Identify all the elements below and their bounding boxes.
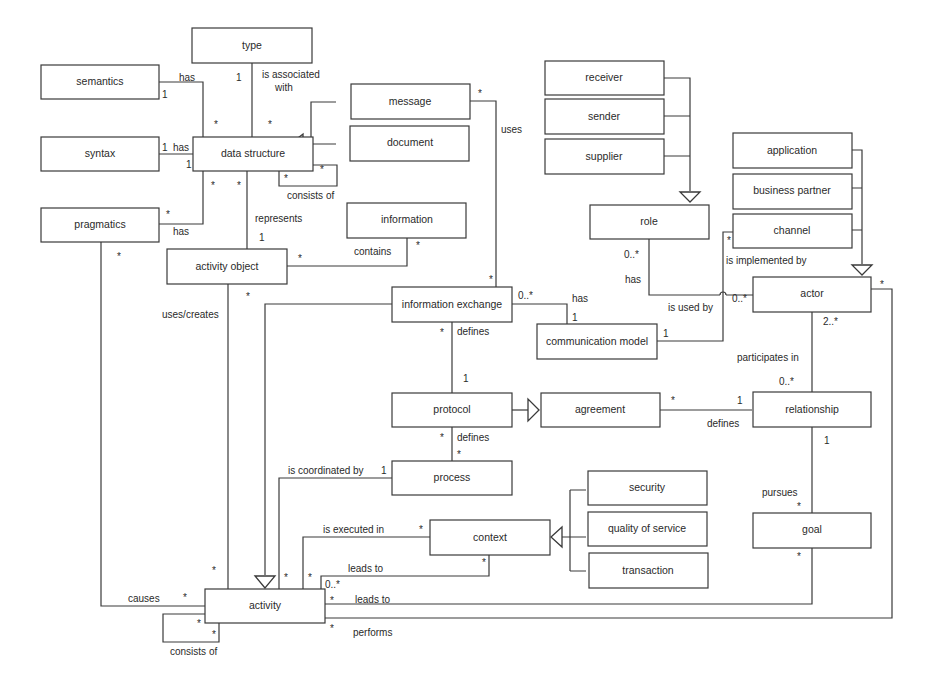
mult-pragmatics-causes: * (117, 251, 121, 262)
class-document[interactable]: document (350, 126, 469, 161)
label-pursues: pursues (762, 487, 798, 498)
class-process[interactable]: process (392, 461, 512, 495)
uml-class-diagram: type semantics syntax pragmatics data st… (0, 0, 925, 677)
class-type[interactable]: type (192, 28, 312, 63)
class-agreement[interactable]: agreement (541, 393, 660, 427)
class-protocol[interactable]: protocol (392, 393, 512, 427)
class-semantics[interactable]: semantics (41, 65, 159, 99)
edge-commmodel-channel (657, 232, 733, 341)
mult-infoexchange-defines: * (440, 327, 444, 338)
class-label: context (473, 531, 507, 543)
label-context-leads-to: leads to (348, 563, 383, 574)
mult-commmodel-used-by: 1 (663, 328, 669, 339)
class-label: type (242, 39, 262, 51)
mult-goal-pursues: * (797, 501, 801, 512)
label-protocol-defines: defines (457, 432, 489, 443)
class-label: pragmatics (74, 218, 125, 230)
class-label: document (387, 136, 433, 148)
class-label: role (640, 215, 658, 227)
class-label: application (767, 144, 817, 156)
label-performs: performs (353, 627, 392, 638)
class-message[interactable]: message (351, 84, 470, 119)
mult-actor-participates: 2..* (823, 316, 838, 327)
class-label: receiver (585, 71, 623, 83)
class-label: transaction (622, 564, 674, 576)
label-is-coordinated-by: is coordinated by (288, 465, 364, 476)
mult-infoexchange-uses: * (489, 274, 493, 285)
class-pragmatics[interactable]: pragmatics (41, 208, 159, 242)
mult-ds-represents: * (237, 180, 241, 191)
class-syntax[interactable]: syntax (41, 137, 159, 171)
edge-generalization-datastructure (311, 102, 336, 144)
class-application[interactable]: application (733, 133, 852, 168)
class-channel[interactable]: channel (733, 214, 852, 248)
mult-semantics: 1 (162, 89, 168, 100)
class-transaction[interactable]: transaction (589, 553, 708, 588)
class-relationship[interactable]: relationship (753, 392, 871, 427)
mult-process-protocol: * (457, 449, 461, 460)
label-participates-in: participates in (737, 352, 799, 363)
label-activity-consists-of: consists of (170, 646, 217, 657)
mult-relationship-defines: 1 (737, 395, 743, 406)
class-data-structure[interactable]: data structure (193, 137, 313, 171)
class-label: data structure (221, 147, 285, 159)
edge-generalization-actor (851, 150, 862, 264)
mult-channel-implemented: * (727, 235, 731, 246)
triangle-actor-icon (852, 265, 872, 275)
class-goal[interactable]: goal (753, 513, 871, 548)
class-information[interactable]: information (347, 203, 466, 238)
edge-generalization-context (551, 490, 586, 571)
label-is-associated-with: is associated (262, 69, 320, 80)
label-infoexchange-defines: defines (457, 326, 489, 337)
edge-message-informationexchange (470, 101, 496, 287)
triangle-agreement-icon (528, 399, 539, 421)
class-information-exchange[interactable]: information exchange (392, 287, 512, 322)
mult-type: 1 (236, 72, 242, 83)
mult-ds-consists-2: * (320, 164, 324, 175)
edge-informationexchange-commmodel (512, 304, 567, 324)
mult-activity-usescreates: * (212, 565, 216, 576)
mult-context-executed: * (419, 524, 423, 535)
mult-information-contains: * (416, 240, 420, 251)
label-is-used-by: is used by (668, 302, 713, 313)
mult-context-leadsto: * (482, 557, 486, 568)
class-supplier[interactable]: supplier (545, 139, 664, 174)
label-is-executed-in: is executed in (323, 524, 384, 535)
mult-ds-pragmatics: * (211, 180, 215, 191)
mult-activityobject-represents: 1 (259, 232, 265, 243)
label-semantics-has: has (179, 72, 195, 83)
mult-ds-type: * (268, 119, 272, 130)
label-is-associated-with-2: with (274, 82, 293, 93)
mult-protocol-process: * (440, 432, 444, 443)
mult-activityobject-usescreates: * (246, 291, 250, 302)
class-communication-model[interactable]: communication model (537, 324, 657, 359)
class-sender[interactable]: sender (545, 99, 664, 134)
mult-commmodel-has: 1 (572, 312, 578, 323)
mult-message-uses: * (478, 88, 482, 99)
triangle-role-icon (680, 192, 700, 202)
label-infoexchange-has: has (572, 293, 588, 304)
mult-actor-performs: * (880, 279, 884, 290)
label-uses: uses (501, 124, 522, 135)
label-is-implemented-by: is implemented by (726, 255, 807, 266)
class-label: relationship (785, 403, 839, 415)
label-pragmatics-has: has (173, 226, 189, 237)
class-label: sender (588, 110, 621, 122)
class-role[interactable]: role (590, 205, 709, 239)
mult-activity-leadsto-context: 0..* (325, 579, 340, 590)
mult-ds-semantics: * (214, 119, 218, 130)
class-activity-object[interactable]: activity object (167, 249, 287, 284)
label-agreement-defines: defines (707, 418, 739, 429)
label-role-has: has (625, 274, 641, 285)
class-security[interactable]: security (588, 471, 707, 505)
class-receiver[interactable]: receiver (545, 61, 664, 95)
mult-activity-consists-1: * (197, 618, 201, 629)
class-label: information (381, 213, 433, 225)
class-actor[interactable]: actor (753, 277, 871, 312)
mult-activity-executed: * (308, 572, 312, 583)
class-quality-of-service[interactable]: quality of service (588, 512, 707, 546)
class-activity[interactable]: activity (205, 589, 325, 623)
mult-ds-consists-1: * (284, 173, 288, 184)
class-context[interactable]: context (430, 520, 550, 555)
class-business-partner[interactable]: business partner (733, 174, 852, 209)
